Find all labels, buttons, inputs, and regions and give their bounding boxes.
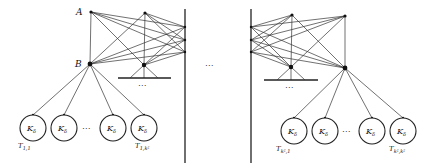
right-circles-ellipsis: ⋯ — [342, 127, 350, 136]
label-a: A — [75, 7, 83, 17]
right-top-node — [343, 14, 346, 17]
gadget-diagram: A B ⋯ Kδ Kδ ⋯ Kδ Kδ T1,1 T1,k² ⋯ — [0, 0, 423, 167]
right-clique-1: Kδ — [281, 118, 307, 144]
right-gadget: ⋯ Kδ Kδ ⋯ Kδ Kδ Tk²,1 Tk²,k² — [250, 9, 416, 163]
right-clique-2: Kδ — [312, 118, 338, 144]
right-clique-3: Kδ — [359, 118, 385, 144]
left-gadget: A B ⋯ Kδ Kδ ⋯ Kδ Kδ T1,1 T1,k² — [18, 7, 186, 163]
right-clique-4: Kδ — [390, 118, 416, 144]
right-middle-top-node — [290, 13, 293, 16]
label-t-1-k2: T1,k² — [135, 142, 149, 151]
left-clique-3: Kδ — [100, 115, 126, 141]
left-clique-4: Kδ — [131, 115, 157, 141]
label-t-k2-1: Tk²,1 — [276, 145, 290, 154]
right-base-ellipsis: ⋯ — [285, 83, 293, 92]
node-b — [88, 62, 93, 67]
right-middle-bottom-node — [289, 65, 293, 69]
label-t-1-1: T1,1 — [18, 142, 31, 151]
left-circles-ellipsis: ⋯ — [82, 124, 90, 133]
center-ellipsis: ⋯ — [205, 61, 213, 70]
node-a — [89, 10, 92, 13]
left-middle-top-node — [143, 11, 146, 14]
left-clique-1: Kδ — [20, 115, 46, 141]
left-base-ellipsis: ⋯ — [138, 81, 146, 90]
right-bottom-node — [343, 66, 348, 71]
label-t-k2-k2: Tk²,k² — [389, 145, 405, 154]
left-middle-bottom-node — [142, 63, 146, 67]
left-clique-2: Kδ — [51, 115, 77, 141]
label-b: B — [74, 59, 82, 69]
